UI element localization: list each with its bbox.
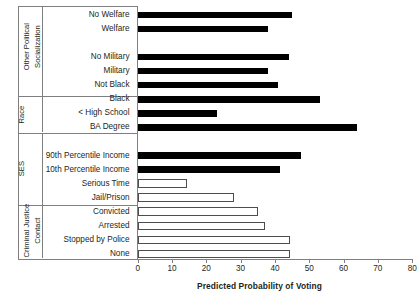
bar-row: None — [0, 245, 419, 263]
bar — [138, 54, 289, 60]
bar-rows: No WelfareWelfareNo MilitaryMilitaryNot … — [0, 6, 419, 259]
bar — [138, 26, 268, 32]
bar — [138, 110, 217, 116]
bar — [138, 68, 268, 74]
bar — [138, 193, 234, 202]
bar — [138, 152, 301, 158]
x-axis-tick-label: 10 — [160, 264, 184, 273]
bar — [138, 236, 291, 245]
x-axis-tick — [378, 260, 379, 264]
x-axis-tick — [412, 260, 413, 264]
x-axis-tick — [172, 260, 173, 264]
x-axis-title: Predicted Probability of Voting — [0, 281, 419, 291]
x-axis-tick-label: 50 — [297, 264, 321, 273]
x-axis-tick-label: 40 — [263, 264, 287, 273]
x-axis-tick — [206, 260, 207, 264]
bar — [138, 166, 280, 172]
bar — [138, 222, 265, 231]
bar — [138, 179, 188, 188]
bar — [138, 207, 258, 216]
x-axis-tick-label: 80 — [400, 264, 419, 273]
x-axis-tick — [344, 260, 345, 264]
bar — [138, 96, 320, 102]
bar — [138, 82, 279, 88]
x-axis-tick-label: 60 — [332, 264, 356, 273]
x-axis-tick — [241, 260, 242, 264]
x-axis-tick-label: 70 — [366, 264, 390, 273]
bar-row-label: None — [110, 245, 130, 263]
bar — [138, 124, 358, 130]
x-axis-tick-label: 20 — [194, 264, 218, 273]
bar — [138, 12, 292, 18]
x-axis-tick — [309, 260, 310, 264]
x-axis-tick — [275, 260, 276, 264]
bar-chart: Other Political Socialization Race SES C… — [0, 0, 419, 306]
x-axis-tick — [138, 260, 139, 264]
x-axis-tick-label: 30 — [229, 264, 253, 273]
x-axis-tick-label: 0 — [126, 264, 150, 273]
x-axis-title-text: Predicted Probability of Voting — [97, 281, 322, 291]
bar — [138, 250, 291, 259]
